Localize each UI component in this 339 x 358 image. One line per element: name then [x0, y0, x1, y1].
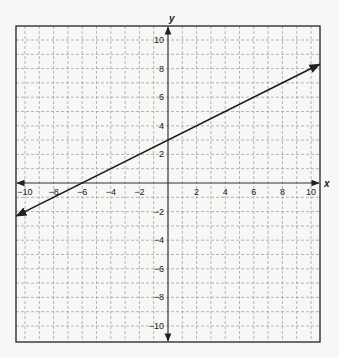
y-tick-label: −10 [149, 321, 164, 331]
x-tick-label: 2 [194, 187, 199, 197]
x-tick-label: 8 [280, 187, 285, 197]
x-tick-label: −4 [106, 187, 116, 197]
y-tick-label: 8 [159, 64, 164, 74]
x-tick-label: −10 [17, 187, 32, 197]
y-tick-label: 6 [159, 92, 164, 102]
y-axis-label: y [168, 13, 175, 24]
y-tick-label: −8 [154, 292, 164, 302]
y-tick-label: −4 [154, 235, 164, 245]
x-axis-label: x [323, 178, 330, 189]
x-tick-label: 4 [223, 187, 228, 197]
y-tick-label: −6 [154, 264, 164, 274]
axes [17, 27, 319, 341]
x-tick-label: 6 [251, 187, 256, 197]
x-tick-label: −6 [77, 187, 87, 197]
coordinate-plane: −10−8−6−4−2246810108642−2−4−6−8−10 x y [0, 0, 339, 358]
y-tick-label: 10 [154, 35, 164, 45]
y-tick-label: 2 [159, 149, 164, 159]
y-tick-label: −2 [154, 207, 164, 217]
x-tick-label: 10 [306, 187, 316, 197]
x-tick-label: −2 [134, 187, 144, 197]
y-tick-label: 4 [159, 121, 164, 131]
